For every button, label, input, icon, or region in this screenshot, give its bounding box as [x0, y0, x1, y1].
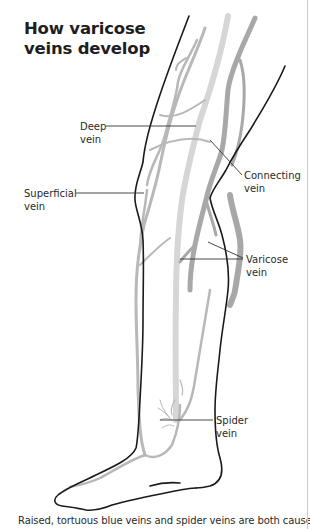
- right-border-divider: [307, 0, 308, 529]
- label-superficial-vein: Superficial vein: [24, 187, 77, 213]
- superficial-vein-graphic: [70, 28, 210, 487]
- label-spider-vein: Spider vein: [216, 414, 248, 440]
- label-varicose-vein: Varicose vein: [246, 253, 288, 279]
- diagram-frame: How varicose veins develop: [0, 0, 310, 529]
- label-deep-vein: Deep vein: [80, 120, 106, 146]
- caption-text: Raised, tortuous blue veins and spider v…: [18, 514, 310, 527]
- label-connecting-vein: Connecting vein: [244, 169, 301, 195]
